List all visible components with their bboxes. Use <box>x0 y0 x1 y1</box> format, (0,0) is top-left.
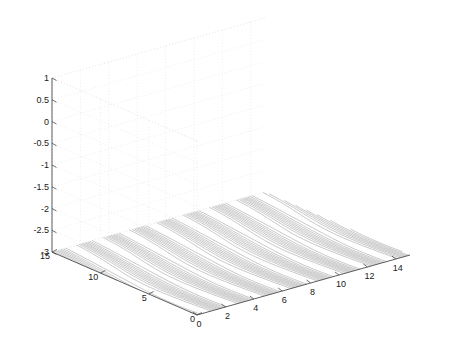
tick-label: 6 <box>282 295 287 305</box>
tick-label: 15 <box>40 251 50 261</box>
tick-label: 1 <box>44 73 49 83</box>
tick-label: 10 <box>88 272 98 282</box>
tick-label: -0.5 <box>33 138 49 148</box>
tick-label: -2.5 <box>33 225 49 235</box>
tick-label: 0 <box>44 117 49 127</box>
tick-label: 12 <box>364 271 374 281</box>
surface-plot-3d: 10.50-0.5-1-1.5-2-2.5-305101502468101214 <box>0 0 455 361</box>
tick-label: -2 <box>41 204 49 214</box>
tick-label: 0 <box>190 314 195 324</box>
tick-label: 0 <box>196 319 201 329</box>
tick-label: 2 <box>225 311 230 321</box>
tick-label: 4 <box>253 303 258 313</box>
figure-canvas: 10.50-0.5-1-1.5-2-2.5-305101502468101214 <box>0 0 455 361</box>
tick-label: -1 <box>41 160 49 170</box>
tick-label: 5 <box>142 293 147 303</box>
tick-label: 8 <box>310 287 315 297</box>
axes-lines <box>52 78 410 315</box>
axis-tick-labels: 10.50-0.5-1-1.5-2-2.5-305101502468101214 <box>33 73 402 329</box>
tick-label: 14 <box>393 263 403 273</box>
tick-label: 0.5 <box>36 95 49 105</box>
tick-label: -1.5 <box>33 182 49 192</box>
tick-label: 10 <box>336 279 346 289</box>
